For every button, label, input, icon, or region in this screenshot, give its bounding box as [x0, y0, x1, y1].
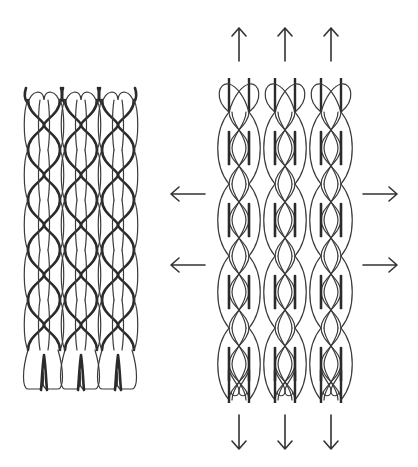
expanded-body	[218, 112, 353, 400]
axial-up-arrows	[232, 28, 338, 61]
arrow-left-icon	[171, 187, 205, 201]
expanded-top-loops	[219, 78, 351, 112]
arrow-left-icon	[171, 258, 205, 272]
radial-right-arrows	[363, 187, 397, 272]
stent-expansion-diagram: Compressed stent	[0, 0, 418, 467]
arrow-up-icon	[232, 28, 246, 61]
arrow-down-icon	[278, 415, 292, 449]
expanded-stent: Expanded stent	[218, 78, 353, 403]
compressed-bottom-feet	[24, 350, 137, 390]
axial-down-arrows	[232, 415, 338, 449]
arrow-right-icon	[363, 187, 397, 201]
arrow-up-icon	[278, 28, 292, 61]
arrow-down-icon	[232, 415, 246, 449]
compressed-stent: Compressed stent	[24, 88, 138, 390]
compressed-top-crowns	[25, 88, 137, 104]
radial-left-arrows	[171, 187, 205, 272]
arrow-down-icon	[324, 415, 338, 449]
compressed-body	[24, 100, 138, 350]
arrow-up-icon	[324, 28, 338, 61]
arrow-right-icon	[363, 258, 397, 272]
